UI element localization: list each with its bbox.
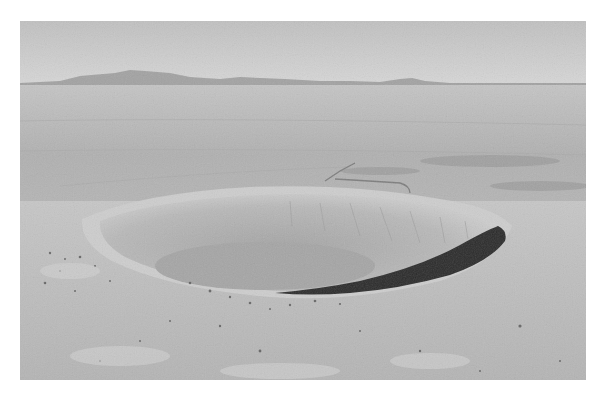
crater-photo (20, 21, 586, 380)
crater-scene (20, 21, 586, 380)
